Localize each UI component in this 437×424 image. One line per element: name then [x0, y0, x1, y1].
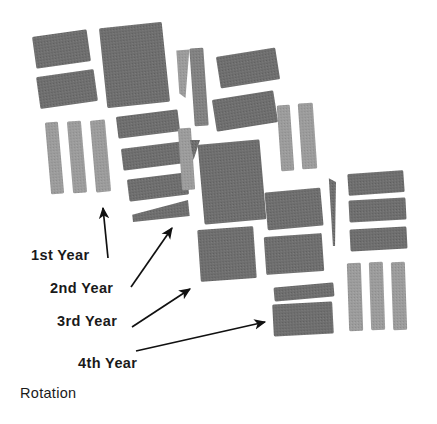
field-plot — [67, 121, 87, 194]
label-rotation-caption: Rotation — [20, 385, 76, 401]
label-3rd-year: 3rd Year — [57, 313, 117, 329]
field-plot — [329, 178, 338, 246]
field-plot — [264, 188, 323, 231]
field-plot — [198, 139, 267, 224]
field-plot — [272, 301, 334, 336]
field-plot — [121, 141, 185, 170]
field-plot — [99, 22, 170, 108]
field-plot — [116, 109, 180, 138]
field-plot — [264, 233, 325, 275]
field-plot — [347, 263, 363, 331]
field-plot — [36, 69, 98, 109]
field-plot-map — [0, 0, 437, 424]
field-plot — [391, 262, 407, 330]
field-plot — [90, 119, 111, 192]
field-plot — [274, 282, 335, 301]
field-plot — [32, 29, 91, 68]
label-1st-year: 1st Year — [31, 247, 90, 263]
field-plot — [127, 172, 189, 201]
field-plot — [189, 48, 208, 127]
label-4th-year: 4th Year — [78, 355, 137, 371]
field-plot — [369, 262, 385, 330]
field-plot-rotation-figure: 1st Year 2nd Year 3rd Year 4th Year Rota… — [0, 0, 437, 424]
field-plot — [197, 226, 256, 282]
field-plot — [348, 198, 406, 223]
field-plot — [277, 105, 295, 172]
field-plot — [347, 170, 404, 196]
field-plot — [45, 122, 64, 195]
leader-arrow — [131, 228, 172, 287]
label-2nd-year: 2nd Year — [50, 280, 113, 296]
field-plot — [349, 227, 407, 252]
leader-arrow — [132, 289, 190, 327]
field-plot — [298, 103, 318, 170]
leader-arrow — [103, 208, 108, 258]
field-plot — [131, 200, 189, 222]
field-plot — [216, 48, 280, 89]
field-plot — [212, 90, 278, 131]
leader-arrow — [136, 322, 265, 351]
